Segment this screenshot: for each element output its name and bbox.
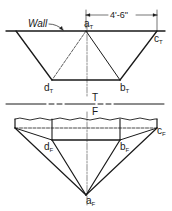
dimension-arrowhead-right bbox=[153, 14, 157, 17]
point-b-front-label: bF bbox=[120, 141, 130, 153]
fold-line-bottom-label: F bbox=[92, 106, 98, 117]
edge-left-corner-a-front bbox=[15, 128, 86, 195]
point-d-top-label: dT bbox=[44, 82, 54, 94]
point-b-top-label: bT bbox=[120, 82, 130, 94]
fold-line-top-label: T bbox=[92, 92, 98, 103]
hidden-edge-ad-top bbox=[52, 31, 86, 80]
point-a-top-label: aT bbox=[84, 18, 94, 30]
edge-left-top-view bbox=[16, 31, 52, 80]
edge-ab-top bbox=[86, 31, 120, 80]
point-c-front-label: cF bbox=[157, 125, 166, 137]
wall-break-line bbox=[15, 118, 157, 120]
wall-label: Wall bbox=[28, 18, 48, 29]
point-a-front-label: aF bbox=[86, 195, 96, 207]
point-d-front-label: dF bbox=[44, 141, 54, 153]
edge-right-top-view bbox=[120, 31, 157, 80]
point-c-top-label: cT bbox=[154, 33, 163, 45]
dimension-arrowhead-left bbox=[86, 14, 90, 17]
orthographic-drawing: Wall 4'-6" aT cT dT bT T F cF dF bF aF bbox=[0, 0, 172, 211]
edge-c-a-front bbox=[86, 128, 157, 195]
dimension-label: 4'-6" bbox=[110, 10, 128, 20]
